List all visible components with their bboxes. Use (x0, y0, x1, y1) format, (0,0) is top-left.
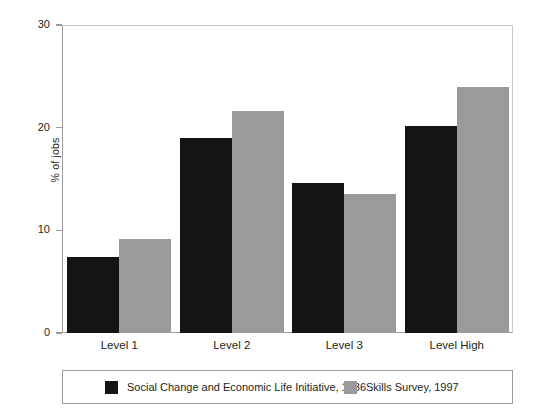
y-axis-tick-label: 20 (18, 122, 50, 133)
y-axis-tick-mark (56, 127, 62, 128)
y-axis-tick-mark (56, 332, 62, 333)
bar (405, 126, 457, 333)
legend-entry-label: Skills Survey, 1997 (366, 381, 459, 394)
bar-chart-figure: % of jobs 3020100 Level 1Level 2Level 3L… (0, 0, 549, 418)
y-axis-tick-label: 10 (18, 224, 50, 235)
bar (292, 183, 344, 333)
x-axis-category-label: Level 2 (176, 339, 289, 351)
bar (119, 239, 171, 333)
y-axis-tick-mark (56, 230, 62, 231)
legend-swatch-icon (344, 381, 357, 394)
x-axis-category-label: Level High (401, 339, 514, 351)
bar (180, 138, 232, 333)
bar (232, 111, 284, 333)
bar (457, 87, 509, 333)
legend-swatch-icon (105, 381, 118, 394)
y-axis-tick-label: 30 (18, 19, 50, 30)
bar (344, 194, 396, 333)
legend-entry: Skills Survey, 1997 (344, 379, 459, 395)
x-axis-category-label: Level 3 (288, 339, 401, 351)
legend-entry-label: Social Change and Economic Life Initiati… (127, 381, 366, 394)
legend-entry: Social Change and Economic Life Initiati… (105, 379, 366, 395)
plot-area (63, 25, 513, 333)
y-axis-tick-mark (56, 24, 62, 25)
bar (67, 257, 119, 333)
x-axis-category-label: Level 1 (63, 339, 176, 351)
y-axis-tick-label: 0 (18, 327, 50, 338)
chart-legend: Social Change and Economic Life Initiati… (62, 370, 513, 404)
